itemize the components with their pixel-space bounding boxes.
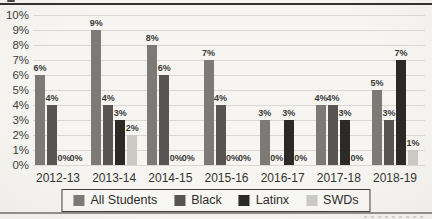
bar-value-label: 7% xyxy=(202,49,215,58)
bar-value-label: 3% xyxy=(382,109,395,118)
bar-value-label: 4% xyxy=(326,94,339,103)
bar xyxy=(316,105,326,165)
legend-label: All Students xyxy=(90,194,157,207)
y-axis-tick-label: 0% xyxy=(0,159,29,171)
legend-label: Black xyxy=(191,194,222,207)
bar xyxy=(216,105,226,165)
bar xyxy=(260,120,270,165)
bar-value-label: 2% xyxy=(126,124,139,133)
bar-value-label: 7% xyxy=(394,49,407,58)
y-axis-tick-label: 4% xyxy=(0,99,29,111)
bar xyxy=(159,75,169,165)
bar xyxy=(396,60,406,165)
bar-value-label: 0% xyxy=(350,154,363,163)
bar xyxy=(372,90,382,165)
bar-value-label: 3% xyxy=(114,109,127,118)
legend-label: Latinx xyxy=(256,194,289,207)
bar xyxy=(115,120,125,165)
bar xyxy=(91,30,101,165)
y-axis-tick-label: 1% xyxy=(0,144,29,156)
bar-value-label: 0% xyxy=(182,154,195,163)
bar-group: 8%6%0%0% xyxy=(147,15,193,165)
bar xyxy=(284,120,294,165)
bar-value-label: 4% xyxy=(214,94,227,103)
y-axis-tick-label: 3% xyxy=(0,114,29,126)
bar-value-label: 4% xyxy=(45,94,58,103)
legend-swatch xyxy=(239,195,250,206)
cropped-text-fragment-bottom xyxy=(364,216,424,218)
bar-group: 4%4%3%0% xyxy=(316,15,362,165)
bar xyxy=(408,150,418,165)
legend-swatch xyxy=(73,195,84,206)
bar-value-label: 6% xyxy=(33,64,46,73)
legend-item: Latinx xyxy=(239,194,289,207)
scanned-page: 10%9%8%7%6%5%4%3%2%1%0%6%4%0%0%2012-139%… xyxy=(0,0,432,219)
bar xyxy=(47,105,57,165)
y-axis-tick-label: 5% xyxy=(0,84,29,96)
bar-group: 9%4%3%2% xyxy=(91,15,137,165)
bar xyxy=(340,120,350,165)
y-axis-tick-label: 8% xyxy=(0,39,29,51)
bar-value-label: 0% xyxy=(69,154,82,163)
bar-value-label: 4% xyxy=(102,94,115,103)
x-axis-category-label: 2012-13 xyxy=(28,171,88,185)
legend-item: SWDs xyxy=(306,194,358,207)
bar-value-label: 3% xyxy=(282,109,295,118)
x-axis-category-label: 2013-14 xyxy=(84,171,144,185)
x-axis-category-label: 2017-18 xyxy=(309,171,369,185)
x-axis-category-label: 2014-15 xyxy=(140,171,200,185)
y-axis-tick-label: 2% xyxy=(0,129,29,141)
bar-group: 7%4%0%0% xyxy=(204,15,250,165)
bar-group: 6%4%0%0% xyxy=(35,15,81,165)
legend: All StudentsBlackLatinxSWDs xyxy=(61,189,370,212)
legend-swatch xyxy=(174,195,185,206)
cropped-text-fragment-top xyxy=(7,0,15,2)
gridline xyxy=(33,165,425,166)
bar-value-label: 3% xyxy=(338,109,351,118)
bar-group: 5%3%7%1% xyxy=(372,15,418,165)
bar-value-label: 8% xyxy=(146,34,159,43)
y-axis-tick-label: 9% xyxy=(0,24,29,36)
bar-value-label: 6% xyxy=(158,64,171,73)
y-axis-tick-label: 10% xyxy=(0,9,29,21)
y-axis-tick-label: 7% xyxy=(0,54,29,66)
y-axis-tick-label: 6% xyxy=(0,69,29,81)
bar-value-label: 0% xyxy=(270,154,283,163)
x-axis-category-label: 2015-16 xyxy=(197,171,257,185)
bar xyxy=(384,120,394,165)
legend-item: All Students xyxy=(73,194,157,207)
bar-value-label: 0% xyxy=(238,154,251,163)
top-border-line xyxy=(0,3,432,5)
bar-value-label: 9% xyxy=(90,19,103,28)
bar xyxy=(127,135,137,165)
legend-label: SWDs xyxy=(323,194,358,207)
x-axis-category-label: 2018-19 xyxy=(365,171,425,185)
bottom-border-line xyxy=(0,212,432,214)
bar xyxy=(328,105,338,165)
bar-group: 3%0%3%0% xyxy=(260,15,306,165)
legend-item: Black xyxy=(174,194,222,207)
legend-swatch xyxy=(306,195,317,206)
bar-value-label: 1% xyxy=(406,139,419,148)
bar-value-label: 0% xyxy=(294,154,307,163)
bar xyxy=(35,75,45,165)
bar xyxy=(147,45,157,165)
bar xyxy=(103,105,113,165)
bar-value-label: 5% xyxy=(370,79,383,88)
bar-value-label: 3% xyxy=(258,109,271,118)
x-axis-category-label: 2016-17 xyxy=(253,171,313,185)
bar xyxy=(204,60,214,165)
